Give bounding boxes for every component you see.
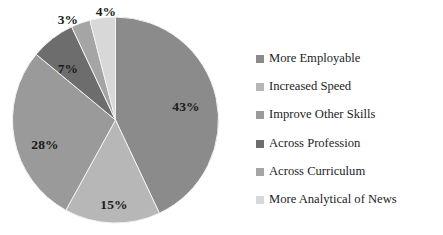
- slice-value-label: 43%: [172, 99, 200, 115]
- legend-swatch-icon: [256, 55, 264, 63]
- legend-swatch-icon: [256, 168, 264, 176]
- legend-item[interactable]: Across Profession: [256, 129, 441, 157]
- legend-item[interactable]: Increased Speed: [256, 72, 441, 100]
- legend-item[interactable]: More Analytical of News: [256, 185, 441, 213]
- legend-item[interactable]: Improve Other Skills: [256, 101, 441, 129]
- legend-item-label: Improve Other Skills: [269, 108, 375, 121]
- pie-chart: 43%15%28%7%3%4% More Employable Increase…: [0, 0, 443, 235]
- legend-swatch-icon: [256, 111, 264, 119]
- slice-value-label: 28%: [31, 137, 59, 153]
- legend-item[interactable]: Across Curriculum: [256, 157, 441, 185]
- chart-legend: More Employable Increased Speed Improve …: [256, 44, 441, 214]
- slice-value-label: 7%: [58, 61, 79, 77]
- legend-item-label: Increased Speed: [269, 80, 351, 93]
- legend-swatch-icon: [256, 196, 264, 204]
- legend-swatch-icon: [256, 83, 264, 91]
- legend-item-label: Across Curriculum: [269, 165, 365, 178]
- legend-item-label: Across Profession: [269, 137, 360, 150]
- slice-value-label: 3%: [58, 12, 79, 28]
- pie-plot-area: 43%15%28%7%3%4%: [0, 0, 240, 235]
- legend-item-label: More Employable: [269, 52, 360, 65]
- legend-item[interactable]: More Employable: [256, 44, 441, 72]
- slice-value-label: 4%: [96, 4, 117, 20]
- slice-value-label: 15%: [100, 197, 128, 213]
- legend-swatch-icon: [256, 140, 264, 148]
- legend-item-label: More Analytical of News: [269, 193, 397, 206]
